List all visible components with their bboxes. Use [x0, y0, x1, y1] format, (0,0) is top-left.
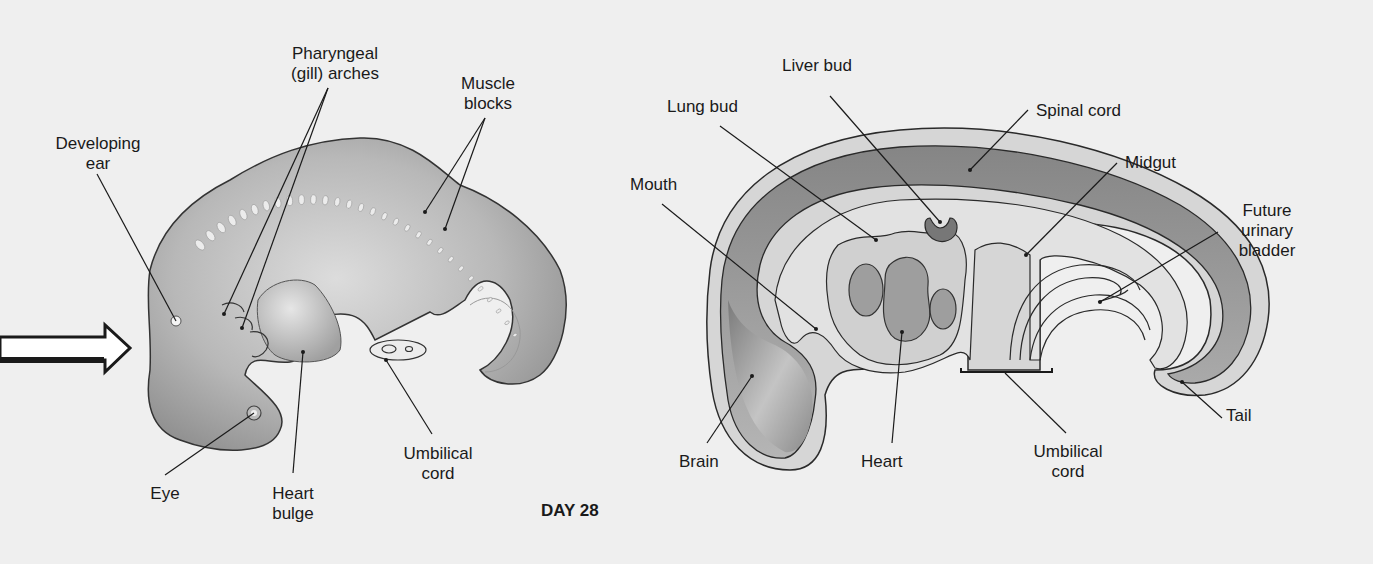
embryo-section: [707, 128, 1269, 470]
somite: [504, 320, 510, 325]
label-heart-bulge: Heart bulge: [258, 484, 328, 524]
label-pharyngeal-arches: Pharyngeal (gill) arches: [270, 44, 400, 84]
label-lung-bud: Lung bud: [667, 97, 738, 117]
label-liver-bud: Liver bud: [782, 56, 852, 76]
umbilical-cord-stump: [370, 340, 426, 360]
embryo-external: [148, 138, 566, 450]
label-umbilical-cord-right: Umbilical cord: [1018, 442, 1118, 482]
somite: [496, 308, 502, 314]
label-spinal-cord: Spinal cord: [1036, 101, 1121, 121]
somite: [477, 286, 484, 292]
label-heart: Heart: [861, 452, 903, 472]
label-midgut: Midgut: [1125, 153, 1176, 173]
embryo-body: [148, 138, 566, 450]
label-umbilical-cord-left: Umbilical cord: [388, 444, 488, 484]
diagram-canvas: [0, 0, 1373, 564]
label-future-urinary-bladder: Future urinary bladder: [1222, 201, 1312, 261]
label-muscle-blocks: Muscle blocks: [448, 74, 528, 114]
somite: [299, 195, 305, 205]
right-arrow-icon: [0, 325, 130, 372]
somite: [310, 195, 316, 205]
label-developing-ear: Developing ear: [48, 134, 148, 174]
label-mouth: Mouth: [630, 175, 677, 195]
label-eye: Eye: [140, 484, 190, 504]
label-tail: Tail: [1226, 406, 1252, 426]
embryo-diagram: Developing ear Pharyngeal (gill) arches …: [0, 0, 1373, 564]
label-brain: Brain: [679, 452, 719, 472]
figure-caption: DAY 28: [541, 501, 599, 521]
heart-chamber: [883, 257, 929, 341]
heart-chamber: [930, 289, 956, 329]
heart-chamber: [849, 264, 883, 316]
